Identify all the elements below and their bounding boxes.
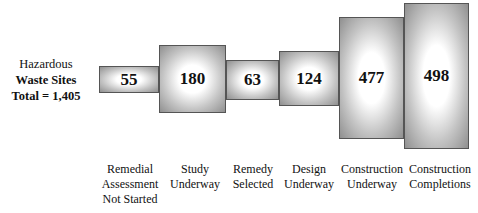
total-label: Hazardous Waste Sites Total = 1,405 — [0, 56, 92, 104]
stage-label: Construction Completions — [404, 162, 476, 192]
stage-box: 63 — [226, 60, 279, 100]
title-line-1: Hazardous — [0, 56, 92, 72]
stage-box: 498 — [404, 3, 469, 149]
stage-value: 180 — [180, 69, 206, 89]
stage-label: Design Underway — [279, 162, 339, 192]
stage-label: Construction Underway — [336, 162, 408, 192]
stage-value: 63 — [244, 70, 261, 90]
title-line-2: Waste Sites — [0, 72, 92, 88]
stage-value: 498 — [424, 66, 450, 86]
stage-label: Study Underway — [164, 162, 226, 192]
stage-box: 55 — [99, 66, 159, 93]
stage-value: 477 — [359, 68, 385, 88]
title-line-3: Total = 1,405 — [0, 88, 92, 104]
stage-box: 124 — [279, 51, 339, 106]
stage-label: Remedial Assessment Not Started — [95, 162, 165, 207]
stage-value: 55 — [121, 70, 138, 90]
stage-box: 180 — [159, 45, 226, 113]
stage-label: Remedy Selected — [226, 162, 280, 192]
stage-value: 124 — [296, 69, 322, 89]
stage-box: 477 — [339, 17, 404, 139]
